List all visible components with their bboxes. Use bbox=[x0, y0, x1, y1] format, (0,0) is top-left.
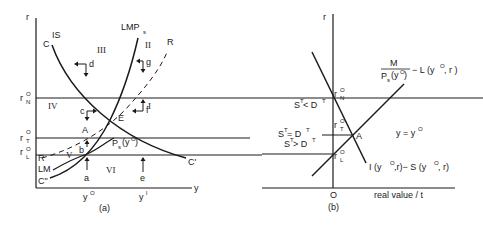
svg-text:I (y: I (y bbox=[369, 162, 382, 172]
svg-text:O: O bbox=[26, 129, 31, 135]
svg-text:g: g bbox=[146, 57, 151, 67]
svg-text:c: c bbox=[80, 106, 85, 116]
svg-text:(y: (y bbox=[391, 70, 399, 80]
arrow-d: d bbox=[74, 59, 94, 77]
panel-b-caption: (b) bbox=[328, 202, 339, 212]
region-v: V bbox=[66, 150, 73, 160]
svg-text:e: e bbox=[140, 173, 145, 183]
svg-text:T: T bbox=[340, 126, 344, 132]
rN-label-a: r bbox=[20, 93, 23, 103]
lmps-label: LMP bbox=[121, 22, 140, 32]
is-label: IS bbox=[52, 30, 61, 40]
point-a: A bbox=[82, 125, 88, 135]
svg-text:O: O bbox=[340, 149, 345, 155]
condition-lt: S T < D T bbox=[294, 98, 326, 110]
lm-label: LM bbox=[38, 164, 51, 174]
region-ii: II bbox=[145, 40, 151, 50]
svg-text:s: s bbox=[143, 29, 146, 35]
c-double-prime-label: C" bbox=[38, 176, 48, 186]
r-bottom-label: R bbox=[38, 153, 45, 163]
tick-y1: y bbox=[139, 192, 144, 202]
svg-text:M: M bbox=[390, 58, 398, 68]
svg-text:s: s bbox=[118, 144, 121, 150]
arrow-a: a bbox=[84, 157, 90, 183]
arrow-e: e bbox=[140, 157, 146, 183]
y-equals-y0: y = y bbox=[396, 128, 416, 138]
is-curve-label-b: I (y O ,r)− S (y O , r) bbox=[369, 160, 449, 172]
svg-text:a: a bbox=[84, 173, 89, 183]
point-a-b: A bbox=[356, 131, 362, 141]
point-e: E bbox=[118, 113, 124, 123]
arrow-b bbox=[85, 140, 90, 147]
svg-text:): ) bbox=[135, 137, 138, 147]
svg-text:O: O bbox=[340, 87, 345, 93]
rL-label-a: r bbox=[20, 147, 23, 157]
condition-eq: S T = D T bbox=[278, 127, 310, 139]
svg-text:L: L bbox=[26, 154, 30, 160]
svg-text:O: O bbox=[340, 118, 345, 124]
svg-text:> D: > D bbox=[293, 139, 308, 149]
panel-a-caption: (a) bbox=[99, 203, 110, 213]
origin-label: O bbox=[330, 190, 337, 200]
svg-text:s: s bbox=[387, 77, 390, 83]
panel-b-x-axis-label: real value / t bbox=[374, 190, 424, 200]
svg-text:N: N bbox=[340, 95, 344, 101]
rT-label-b: r bbox=[334, 120, 337, 130]
panel-a-r-axis-label: r bbox=[26, 12, 29, 22]
svg-text:l: l bbox=[146, 190, 147, 196]
money-curve-label: M P s (y O ) − L (y O , r ) bbox=[381, 58, 458, 83]
svg-text:, r ): , r ) bbox=[444, 65, 458, 75]
svg-text:): ) bbox=[404, 70, 407, 80]
tick-y0: y bbox=[83, 192, 88, 202]
is-line-b bbox=[312, 52, 366, 163]
condition-gt: S T > D T bbox=[284, 137, 316, 149]
svg-text:, r): , r) bbox=[438, 162, 449, 172]
svg-text:T: T bbox=[26, 138, 30, 144]
svg-text:N: N bbox=[26, 99, 30, 105]
panel-a-y-axis-label: y bbox=[194, 183, 199, 193]
svg-text:d: d bbox=[89, 59, 94, 69]
panel-b-r-axis-label: r bbox=[323, 12, 326, 22]
region-vi: VI bbox=[106, 165, 116, 175]
arrow-f: f bbox=[132, 99, 149, 115]
svg-text:L: L bbox=[340, 157, 344, 163]
svg-text:O: O bbox=[26, 91, 31, 97]
svg-text:− L (y: − L (y bbox=[412, 65, 435, 75]
svg-text:O: O bbox=[26, 146, 31, 152]
svg-text:T: T bbox=[312, 137, 316, 143]
region-iii: III bbox=[97, 45, 106, 55]
svg-text:(y: (y bbox=[122, 137, 130, 147]
panel-b: r r O N r O T r O L S T < D T S T = D T bbox=[262, 12, 458, 212]
arrow-g: g bbox=[136, 57, 151, 73]
svg-text:T: T bbox=[322, 98, 326, 104]
c-prime-label: C' bbox=[188, 157, 196, 167]
region-iv: IV bbox=[48, 101, 58, 111]
svg-text:O: O bbox=[90, 190, 95, 196]
svg-text:T: T bbox=[306, 127, 310, 133]
diagram-canvas: r y r O N r O T r O L IS C LMP s R R LM … bbox=[0, 0, 483, 228]
point-b: b bbox=[79, 145, 84, 155]
rN-label-b: r bbox=[334, 89, 337, 99]
rT-label-a: r bbox=[20, 133, 23, 143]
panel-a: r y r O N r O T r O L IS C LMP s R R LM … bbox=[20, 12, 483, 213]
rL-label-b: r bbox=[334, 151, 337, 161]
svg-text:< D: < D bbox=[303, 100, 318, 110]
c-label: C bbox=[43, 39, 50, 49]
r-top-label: R bbox=[167, 37, 174, 47]
svg-text:,r)− S (y: ,r)− S (y bbox=[394, 162, 427, 172]
svg-text:O: O bbox=[418, 126, 423, 132]
